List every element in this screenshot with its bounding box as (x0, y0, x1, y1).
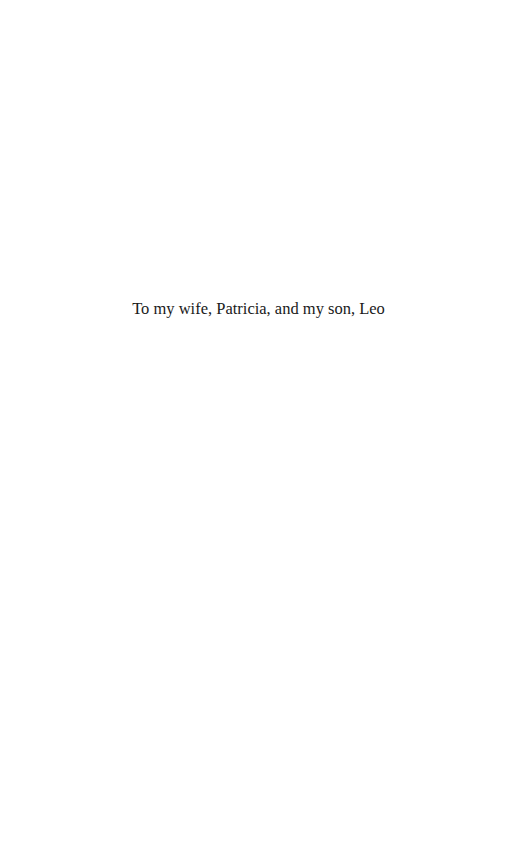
book-page: To my wife, Patricia, and my son, Leo (0, 0, 517, 866)
dedication-text: To my wife, Patricia, and my son, Leo (0, 298, 517, 320)
